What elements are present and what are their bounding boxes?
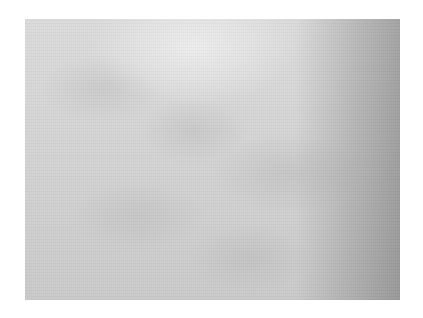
textured-surface-photo <box>25 19 400 300</box>
photo-grain-texture <box>25 19 400 300</box>
